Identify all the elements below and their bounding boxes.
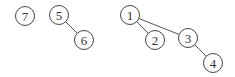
edge-1-2 (137, 22, 149, 34)
node-6: 6 (75, 31, 94, 50)
node-1: 1 (121, 6, 140, 25)
node-3: 3 (179, 29, 198, 48)
node-label: 3 (185, 31, 192, 46)
node-5: 5 (50, 6, 69, 25)
edge-5-6 (66, 22, 78, 34)
nodes-layer: 7561234 (16, 6, 223, 73)
node-2: 2 (146, 31, 165, 50)
node-label: 4 (210, 56, 217, 71)
node-label: 1 (127, 8, 134, 23)
node-7: 7 (16, 7, 35, 26)
tree-diagram: 7561234 (0, 0, 235, 77)
node-4: 4 (204, 54, 223, 73)
edge-3-4 (195, 45, 207, 57)
node-label: 2 (152, 33, 159, 48)
node-label: 5 (56, 8, 63, 23)
node-label: 6 (81, 33, 88, 48)
node-label: 7 (22, 9, 29, 24)
